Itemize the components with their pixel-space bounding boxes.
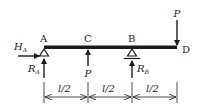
label-point-b: B [128,33,135,44]
pin-support-a-icon [40,49,49,56]
label-rb: RB [136,63,150,75]
dimension-label-bd: l/2 [146,83,159,94]
label-point-a: A [39,33,48,44]
label-ra: RA [27,63,41,75]
roller-support-b-icon [124,49,140,59]
label-p-c: P [84,68,92,79]
label-p-d: P [173,8,181,19]
beam [44,46,177,50]
label-ha: HA [13,41,28,53]
dimension-label-ac: l/2 [58,83,71,94]
label-point-c: C [84,33,92,44]
label-point-d: D [182,44,190,55]
beam-diagram: A C B D HA RA P RB P [0,0,201,109]
dimension-label-cb: l/2 [102,83,115,94]
